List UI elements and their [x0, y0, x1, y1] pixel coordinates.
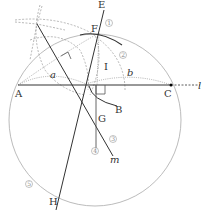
step-marker-5: 5	[26, 180, 33, 188]
label-arc-b: b	[127, 67, 133, 78]
label-line-l: l	[198, 80, 201, 91]
line-m	[37, 24, 113, 156]
svg-text:3: 3	[111, 135, 115, 142]
svg-text:4: 4	[93, 147, 97, 154]
svg-text:5: 5	[27, 180, 31, 187]
point-c-dot	[170, 84, 173, 87]
step-marker-2: 2	[120, 51, 127, 59]
label-b: B	[115, 104, 122, 115]
label-e: E	[98, 0, 105, 10]
arc-b	[86, 77, 171, 85]
dotted-arcs	[18, 33, 171, 85]
label-line-m: m	[110, 154, 119, 165]
construction-diagram: E F I A C B G H a b l m 1 2 3 4 5	[0, 0, 208, 219]
arc-2	[80, 34, 122, 45]
label-f: F	[91, 23, 98, 34]
label-arc-a: a	[50, 69, 56, 80]
step-marker-1: 1	[106, 19, 113, 27]
circumcircle	[9, 34, 181, 206]
label-g: G	[98, 113, 106, 124]
label-i: I	[104, 61, 108, 72]
svg-text:2: 2	[121, 51, 125, 58]
label-c: C	[164, 88, 172, 99]
label-h: H	[49, 196, 58, 207]
right-angle-g	[96, 85, 105, 94]
label-a: A	[14, 88, 23, 99]
right-angle-upper	[61, 52, 71, 59]
step-marker-4: 4	[92, 147, 99, 155]
geometry-figure: E F I A C B G H a b l m 1 2 3 4 5	[0, 0, 208, 219]
arc-b-curve	[89, 86, 117, 106]
step-marker-3: 3	[110, 135, 117, 143]
svg-text:1: 1	[107, 19, 111, 26]
